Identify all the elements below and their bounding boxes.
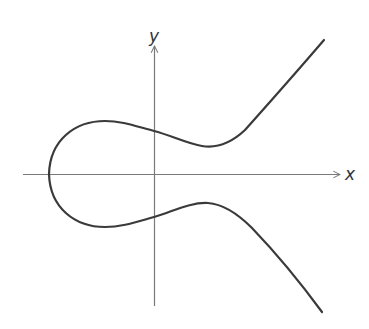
y-axis-label: y [148, 26, 160, 46]
diagram-canvas: x y [0, 0, 369, 329]
x-axis-label: x [344, 164, 356, 184]
elliptic-curve [49, 40, 324, 312]
